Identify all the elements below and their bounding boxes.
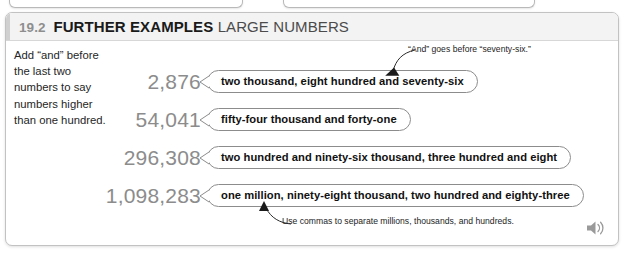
bubble-tail-icon	[199, 75, 209, 89]
example-words-bubble: two thousand, eight hundred and seventy-…	[207, 70, 478, 93]
speaker-icon[interactable]	[585, 219, 606, 237]
lesson-panel: 19.2 FURTHER EXAMPLES LARGE NUMBERS Add …	[5, 12, 619, 246]
example-words: one million, ninety-eight thousand, two …	[221, 189, 570, 201]
bubble-tail-icon	[199, 151, 209, 165]
header-accent-bar	[6, 13, 10, 40]
example-words-bubble: one million, ninety-eight thousand, two …	[207, 184, 584, 207]
previous-card-left	[9, 0, 243, 8]
panel-header: 19.2 FURTHER EXAMPLES LARGE NUMBERS	[6, 13, 618, 41]
example-words-bubble: two hundred and ninety-six thousand, thr…	[207, 146, 571, 169]
section-number: 19.2	[19, 20, 46, 35]
example-words: two thousand, eight hundred and seventy-…	[221, 75, 464, 87]
example-words-bubble: fifty-four thousand and forty-one	[207, 108, 411, 131]
bubble-tail-icon	[199, 113, 209, 127]
worksheet-screen: 19.2 FURTHER EXAMPLES LARGE NUMBERS Add …	[0, 0, 624, 258]
annotation-bottom: Use commas to separate millions, thousan…	[282, 216, 514, 227]
example-number: 2,876	[147, 70, 201, 94]
title-light: LARGE NUMBERS	[218, 18, 349, 35]
example-words: two hundred and ninety-six thousand, thr…	[221, 151, 557, 163]
example-number: 54,041	[136, 108, 201, 132]
page-title: 19.2 FURTHER EXAMPLES LARGE NUMBERS	[19, 17, 349, 37]
example-words: fifty-four thousand and forty-one	[221, 113, 397, 125]
bubble-tail-icon	[199, 189, 209, 203]
instruction-text: Add “and” before the last two numbers to…	[14, 47, 106, 128]
example-number: 296,308	[124, 146, 201, 170]
previous-card-right	[283, 0, 535, 8]
example-number: 1,098,283	[106, 184, 201, 208]
title-strong: FURTHER EXAMPLES	[53, 18, 213, 35]
annotation-top: “And” goes before “seventy-six.”	[408, 44, 531, 55]
